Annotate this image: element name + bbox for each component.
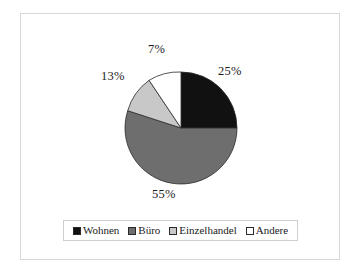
chart-frame: 25% 55% 13% 7% Wohnen Büro Einzelhandel … [20,13,340,260]
pie-chart-graphic [124,71,238,185]
legend-label-andere: Andere [256,225,288,236]
legend-swatch-buero-icon [128,227,136,235]
legend-item-buero[interactable]: Büro [128,225,160,236]
pie-label-wohnen-percent: 25% [218,64,242,79]
legend-item-wohnen[interactable]: Wohnen [73,225,119,236]
legend-swatch-einzelhandel-icon [169,227,177,235]
legend-item-andere[interactable]: Andere [246,225,288,236]
legend-label-einzelhandel: Einzelhandel [179,225,236,236]
legend-swatch-wohnen-icon [73,227,81,235]
legend-item-einzelhandel[interactable]: Einzelhandel [169,225,236,236]
legend-label-buero: Büro [138,225,160,236]
legend-swatch-andere-icon [246,227,254,235]
chart-legend: Wohnen Büro Einzelhandel Andere [63,220,298,241]
pie-label-buero-percent: 55% [152,187,176,202]
legend-label-wohnen: Wohnen [83,225,119,236]
pie-label-andere-percent: 7% [148,42,165,57]
pie-label-einzelhandel-percent: 13% [101,69,125,84]
pie-slice-wohnen[interactable] [181,72,237,128]
